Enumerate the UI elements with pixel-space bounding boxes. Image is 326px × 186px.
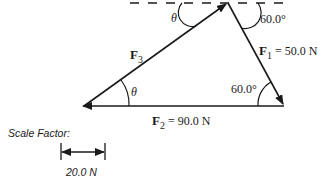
top-right-angle-label: 60.0°	[260, 12, 286, 26]
theta-top-label: θ	[171, 11, 177, 25]
scale-value-label: 20.0 N	[65, 166, 97, 178]
f3-vector-arrow	[84, 4, 226, 106]
f1-label: F1 = 50.0 N	[259, 43, 318, 61]
theta-left-angle-arc	[121, 80, 129, 106]
theta-top-angle-arc	[178, 3, 196, 27]
top-right-60-angle-arc	[241, 3, 261, 29]
vector-diagram: θ 60.0° θ 60.0° F3 F1 = 50.0 N F2 = 90.0…	[0, 0, 326, 186]
theta-left-label: θ	[131, 85, 137, 99]
bottom-right-60-angle-arc	[258, 82, 271, 106]
f2-label: F2 = 90.0 N	[152, 113, 211, 131]
bottom-right-angle-label: 60.0°	[231, 82, 257, 96]
scale-factor-title: Scale Factor:	[8, 127, 70, 139]
f3-label: F3	[130, 47, 143, 65]
